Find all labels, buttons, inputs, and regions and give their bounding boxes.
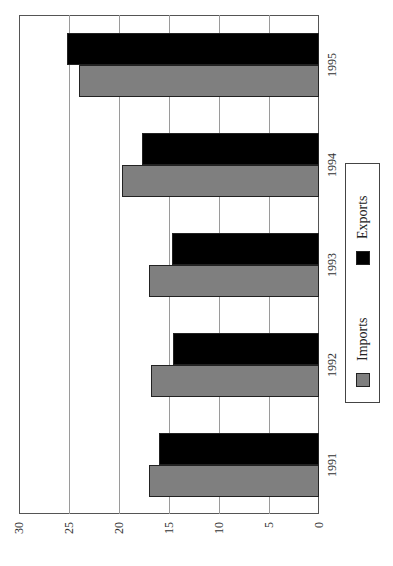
bar-exports-1995 [67, 33, 319, 65]
bar-imports-1995 [79, 65, 319, 97]
legend-label-imports: Imports [355, 317, 371, 361]
exports-swatch [356, 251, 370, 265]
bar-imports-1993 [149, 265, 319, 297]
category-label: 1994 [325, 145, 339, 185]
bar-chart: 051015202530 19911992199319941995 Import… [0, 0, 393, 566]
axis-tick-label: 0 [312, 513, 326, 537]
gridline [69, 15, 70, 514]
bar-exports-1991 [159, 433, 319, 465]
axis-tick-label: 10 [212, 516, 226, 540]
axis-tick-label: 5 [262, 513, 276, 537]
category-label: 1993 [325, 245, 339, 285]
bar-exports-1994 [142, 133, 319, 165]
axis-tick-label: 15 [162, 516, 176, 540]
bar-imports-1992 [151, 365, 319, 397]
legend: Imports Exports [345, 163, 380, 403]
axis-tick-label: 20 [112, 516, 126, 540]
category-label: 1992 [325, 345, 339, 385]
legend-label-exports: Exports [355, 195, 371, 239]
bar-imports-1994 [122, 165, 319, 197]
bar-exports-1992 [173, 333, 319, 365]
axis-tick-label: 30 [12, 516, 26, 540]
imports-swatch [356, 373, 370, 387]
bar-imports-1991 [149, 465, 319, 497]
axis-tick-label: 25 [62, 516, 76, 540]
bar-exports-1993 [172, 233, 319, 265]
category-label: 1991 [325, 445, 339, 485]
category-label: 1995 [325, 45, 339, 85]
